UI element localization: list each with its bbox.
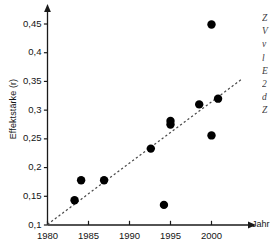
x-tick-label: 1995	[148, 230, 194, 241]
clipped-text-line: Z	[262, 12, 275, 25]
data-point	[100, 176, 108, 184]
clipped-text-line: 2	[262, 78, 275, 91]
data-point	[160, 201, 168, 209]
x-axis-title: Jahr	[252, 219, 270, 229]
y-tick-label: 0,25	[0, 132, 42, 143]
x-tick-label: 1980	[25, 230, 71, 241]
y-tick-label: 0,2	[0, 161, 42, 172]
data-point	[195, 100, 203, 108]
y-tick-label: 0,35	[0, 75, 42, 86]
data-point	[214, 94, 222, 102]
scatter-chart-figure: Effektstärke (r) Jahr 0,10,150,20,250,30…	[0, 0, 275, 251]
chart-axes	[44, 4, 256, 228]
clipped-text-line: v	[262, 38, 275, 51]
clipped-text-line: Z	[262, 104, 275, 117]
y-tick-label: 0,4	[0, 46, 42, 57]
y-tick-label: 0,1	[0, 219, 42, 230]
data-point	[166, 117, 174, 125]
data-point	[147, 144, 155, 152]
y-tick-label: 0,3	[0, 104, 42, 115]
data-points	[70, 20, 222, 209]
clipped-text-line: l	[262, 52, 275, 65]
clipped-text-line: E	[262, 65, 275, 78]
data-point	[77, 176, 85, 184]
data-point	[207, 20, 215, 28]
x-tick-label: 2000	[189, 230, 235, 241]
clipped-text-line: d	[262, 91, 275, 104]
x-tick-label: 1985	[66, 230, 112, 241]
data-point	[70, 196, 78, 204]
x-tick-label: 1990	[107, 230, 153, 241]
clipped-text-line: V	[262, 25, 275, 38]
y-tick-label: 0,45	[0, 18, 42, 29]
data-point	[207, 131, 215, 139]
clipped-body-text: ZVvlE2dZ	[262, 12, 275, 118]
chart-canvas	[0, 0, 275, 251]
y-tick-label: 0,15	[0, 190, 42, 201]
